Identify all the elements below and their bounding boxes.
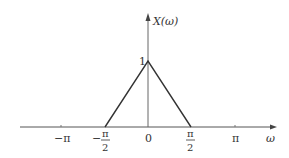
tick-label-neg-half-pi-den: 2 — [102, 142, 108, 153]
peak-label: 1 — [139, 55, 146, 68]
function-label: X(ω) — [152, 15, 178, 28]
x-axis-label: ω — [266, 132, 275, 145]
spectrum-diagram: X(ω) 1 ω −π − π 2 0 π 2 π — [0, 0, 289, 158]
x-axis-arrow-icon — [270, 125, 277, 130]
tick-label-neg-pi: −π — [54, 132, 70, 145]
tick-label-half-pi-den: 2 — [187, 142, 193, 153]
tick-label-half-pi-num: π — [187, 128, 194, 139]
tick-label-pi: π — [232, 132, 239, 145]
y-axis-arrow-icon — [146, 13, 151, 21]
tick-label-zero: 0 — [145, 132, 152, 145]
tick-label-neg-half-pi-num: π — [102, 128, 109, 139]
tick-label-neg-half-pi-sign: − — [92, 132, 101, 145]
